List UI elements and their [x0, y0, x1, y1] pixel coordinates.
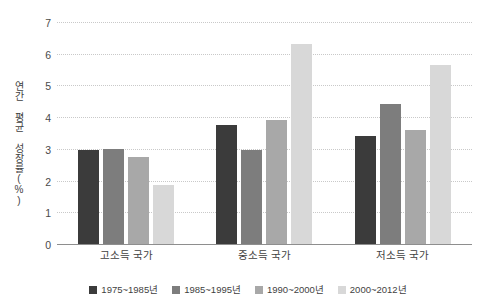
- bar-chart: 연간 평균 성장률(%) 01234567 고소득 국가중소득 국가저소득 국가…: [0, 0, 496, 307]
- legend-swatch-icon: [255, 286, 263, 294]
- legend-item[interactable]: 1975~1985년: [89, 284, 158, 295]
- axis-baseline: 0: [57, 244, 472, 245]
- y-tick-label: 2: [25, 176, 51, 187]
- x-axis-label: 중소득 국가: [205, 248, 323, 266]
- x-axis-labels: 고소득 국가중소득 국가저소득 국가: [57, 248, 472, 266]
- chart-legend: 1975~1985년1985~1995년1990~2000년2000~2012년: [0, 284, 496, 295]
- bar[interactable]: [153, 185, 174, 244]
- legend-item[interactable]: 1985~1995년: [172, 284, 241, 295]
- y-tick-label: 5: [25, 81, 51, 92]
- legend-label: 1985~1995년: [184, 284, 241, 295]
- legend-swatch-icon: [89, 286, 97, 294]
- x-axis-label: 저소득 국가: [344, 248, 462, 266]
- legend-item[interactable]: 2000~2012년: [338, 284, 407, 295]
- bar[interactable]: [405, 130, 426, 244]
- y-tick-label: 0: [25, 240, 51, 251]
- bar[interactable]: [128, 157, 149, 244]
- legend-swatch-icon: [172, 286, 180, 294]
- x-axis-label: 고소득 국가: [67, 248, 185, 266]
- bar-groups: [57, 22, 472, 244]
- plot-area: 01234567: [57, 22, 472, 244]
- legend-item[interactable]: 1990~2000년: [255, 284, 324, 295]
- bar[interactable]: [430, 65, 451, 244]
- y-tick-label: 3: [25, 144, 51, 155]
- bar-group: [205, 22, 323, 244]
- bar[interactable]: [103, 149, 124, 244]
- legend-label: 2000~2012년: [350, 284, 407, 295]
- bar[interactable]: [216, 125, 237, 244]
- y-tick-label: 4: [25, 113, 51, 124]
- bar[interactable]: [355, 136, 376, 244]
- bar[interactable]: [78, 150, 99, 244]
- legend-label: 1975~1985년: [101, 284, 158, 295]
- y-tick-label: 1: [25, 208, 51, 219]
- bar[interactable]: [291, 44, 312, 244]
- y-tick-label: 6: [25, 49, 51, 60]
- bar[interactable]: [241, 150, 262, 244]
- bar[interactable]: [266, 120, 287, 244]
- legend-swatch-icon: [338, 286, 346, 294]
- bar-group: [67, 22, 185, 244]
- y-tick-label: 7: [25, 18, 51, 29]
- legend-label: 1990~2000년: [267, 284, 324, 295]
- bar[interactable]: [380, 104, 401, 244]
- bar-group: [344, 22, 462, 244]
